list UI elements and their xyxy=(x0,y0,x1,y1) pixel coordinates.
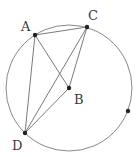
point-d xyxy=(23,131,27,135)
point-b xyxy=(67,86,71,90)
segments-group xyxy=(25,27,87,133)
point-e xyxy=(126,109,130,113)
label-d: D xyxy=(12,138,22,153)
point-a xyxy=(33,33,37,37)
segment-ab xyxy=(35,35,69,88)
segment-cb xyxy=(69,27,87,88)
label-b: B xyxy=(74,92,84,107)
label-c: C xyxy=(88,8,98,23)
diagram-svg: ACBD xyxy=(0,0,140,157)
label-a: A xyxy=(20,19,31,34)
point-c xyxy=(85,25,89,29)
geometry-diagram: ACBD xyxy=(0,0,140,157)
